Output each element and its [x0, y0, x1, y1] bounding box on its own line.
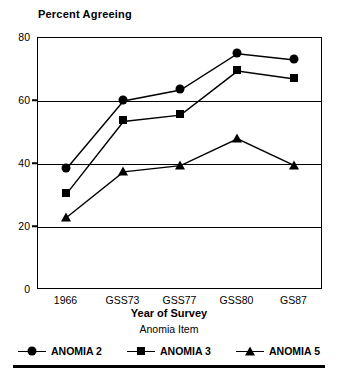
circle-marker-icon — [232, 48, 241, 57]
data-point — [118, 166, 128, 175]
chart-legend: ANOMIA 2ANOMIA 3ANOMIA 5 — [18, 341, 320, 361]
data-point — [175, 84, 184, 93]
x-tick-label-GSS73: GSS73 — [106, 294, 140, 306]
legend-title: Anomia Item — [0, 323, 338, 335]
data-point — [176, 110, 184, 118]
square-marker-icon — [62, 189, 70, 197]
data-point — [232, 133, 242, 142]
y-tick-label-0: 0 — [8, 283, 30, 295]
y-tick-label-20: 20 — [8, 220, 30, 232]
data-point — [289, 160, 299, 169]
legend-entry-anomia-5[interactable]: ANOMIA 5 — [236, 344, 320, 358]
triangle-marker-icon — [118, 166, 128, 175]
chart-figure: Percent Agreeing 020406080 1966GSS73GSS7… — [0, 0, 338, 374]
data-point — [61, 212, 71, 221]
triangle-marker-icon — [245, 347, 255, 356]
x-tick-label-GS87: GS87 — [280, 294, 307, 306]
square-marker-icon — [176, 110, 184, 118]
circle-marker-icon — [289, 55, 298, 64]
chart-title: Percent Agreeing — [38, 8, 132, 20]
y-tick-label-80: 80 — [8, 31, 30, 43]
data-point — [232, 48, 241, 57]
legend-entry-anomia-2[interactable]: ANOMIA 2 — [18, 344, 102, 358]
legend-label: ANOMIA 2 — [51, 345, 102, 357]
triangle-marker-icon — [232, 133, 242, 142]
legend-swatch — [127, 344, 155, 358]
data-point — [62, 189, 70, 197]
square-marker-icon — [137, 347, 145, 355]
gridline-60 — [38, 101, 321, 102]
data-point — [61, 163, 70, 172]
circle-marker-icon — [118, 96, 127, 105]
x-tick-label-GSS80: GSS80 — [220, 294, 254, 306]
circle-marker-icon — [28, 347, 37, 356]
data-point — [118, 96, 127, 105]
data-point — [175, 160, 185, 169]
legend-label: ANOMIA 3 — [160, 345, 211, 357]
y-tick-mark-20 — [32, 225, 37, 227]
square-marker-icon — [233, 66, 241, 74]
x-tick-label-1966: 1966 — [54, 294, 77, 306]
y-tick-mark-40 — [32, 162, 37, 164]
gridline-20 — [38, 227, 321, 228]
x-axis-title: Year of Survey — [0, 307, 338, 319]
y-tick-mark-60 — [32, 99, 37, 101]
data-point — [119, 116, 127, 124]
data-point — [290, 74, 298, 82]
legend-swatch — [18, 344, 46, 358]
y-tick-label-40: 40 — [8, 157, 30, 169]
circle-marker-icon — [61, 163, 70, 172]
square-marker-icon — [119, 116, 127, 124]
triangle-marker-icon — [289, 160, 299, 169]
x-tick-label-GSS77: GSS77 — [163, 294, 197, 306]
triangle-marker-icon — [175, 160, 185, 169]
legend-swatch — [236, 344, 264, 358]
y-tick-label-60: 60 — [8, 94, 30, 106]
data-point — [233, 66, 241, 74]
legend-entry-anomia-3[interactable]: ANOMIA 3 — [127, 344, 211, 358]
bottom-divider — [13, 365, 325, 368]
circle-marker-icon — [175, 84, 184, 93]
legend-label: ANOMIA 5 — [269, 345, 320, 357]
data-point — [289, 55, 298, 64]
square-marker-icon — [290, 74, 298, 82]
triangle-marker-icon — [61, 212, 71, 221]
